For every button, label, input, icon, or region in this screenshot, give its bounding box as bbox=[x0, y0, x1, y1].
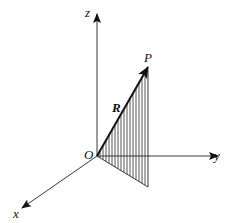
x-axis-label: x bbox=[13, 207, 19, 220]
x-axis bbox=[22, 156, 97, 208]
vector-r bbox=[97, 67, 148, 156]
origin-label: O bbox=[84, 148, 93, 161]
vector-r-label: R bbox=[112, 101, 121, 114]
point-p-label: P bbox=[144, 51, 152, 64]
y-axis-label: y bbox=[214, 149, 220, 162]
coordinate-diagram: z y x O P R bbox=[0, 0, 231, 223]
z-axis-label: z bbox=[85, 6, 90, 19]
projection-base-line bbox=[97, 156, 148, 187]
hatched-projection-triangle bbox=[100, 72, 145, 185]
